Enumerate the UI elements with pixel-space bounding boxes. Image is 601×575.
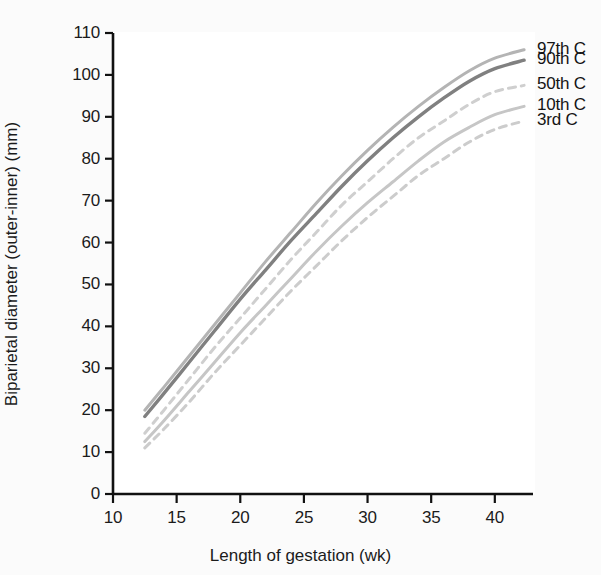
x-tick-label: 15 [147, 508, 207, 528]
y-tick-label: 30 [40, 358, 100, 378]
y-tick-label: 100 [40, 65, 100, 85]
y-tick-label: 60 [40, 233, 100, 253]
series-label-90th-c: 90th C [537, 49, 586, 69]
series-label-3rd-c: 3rd C [537, 110, 578, 130]
y-tick-label: 80 [40, 149, 100, 169]
x-tick-label: 30 [338, 508, 398, 528]
chart-figure: Biparietal diameter (outer-inner) (mm) L… [0, 0, 601, 575]
y-tick-label: 0 [40, 484, 100, 504]
x-tick-label: 20 [210, 508, 270, 528]
x-tick-label: 40 [465, 508, 525, 528]
y-tick-label: 40 [40, 316, 100, 336]
y-tick-label: 110 [40, 23, 100, 43]
x-tick-label: 25 [274, 508, 334, 528]
y-axis-title: Biparietal diameter (outer-inner) (mm) [2, 121, 22, 405]
y-tick-label: 20 [40, 400, 100, 420]
y-tick-label: 10 [40, 442, 100, 462]
y-tick-label: 90 [40, 107, 100, 127]
x-tick-label: 10 [83, 508, 143, 528]
y-tick-label: 70 [40, 191, 100, 211]
x-axis-title: Length of gestation (wk) [0, 546, 601, 566]
y-tick-label: 50 [40, 274, 100, 294]
x-tick-label: 35 [401, 508, 461, 528]
series-label-50th-c: 50th C [537, 74, 586, 94]
